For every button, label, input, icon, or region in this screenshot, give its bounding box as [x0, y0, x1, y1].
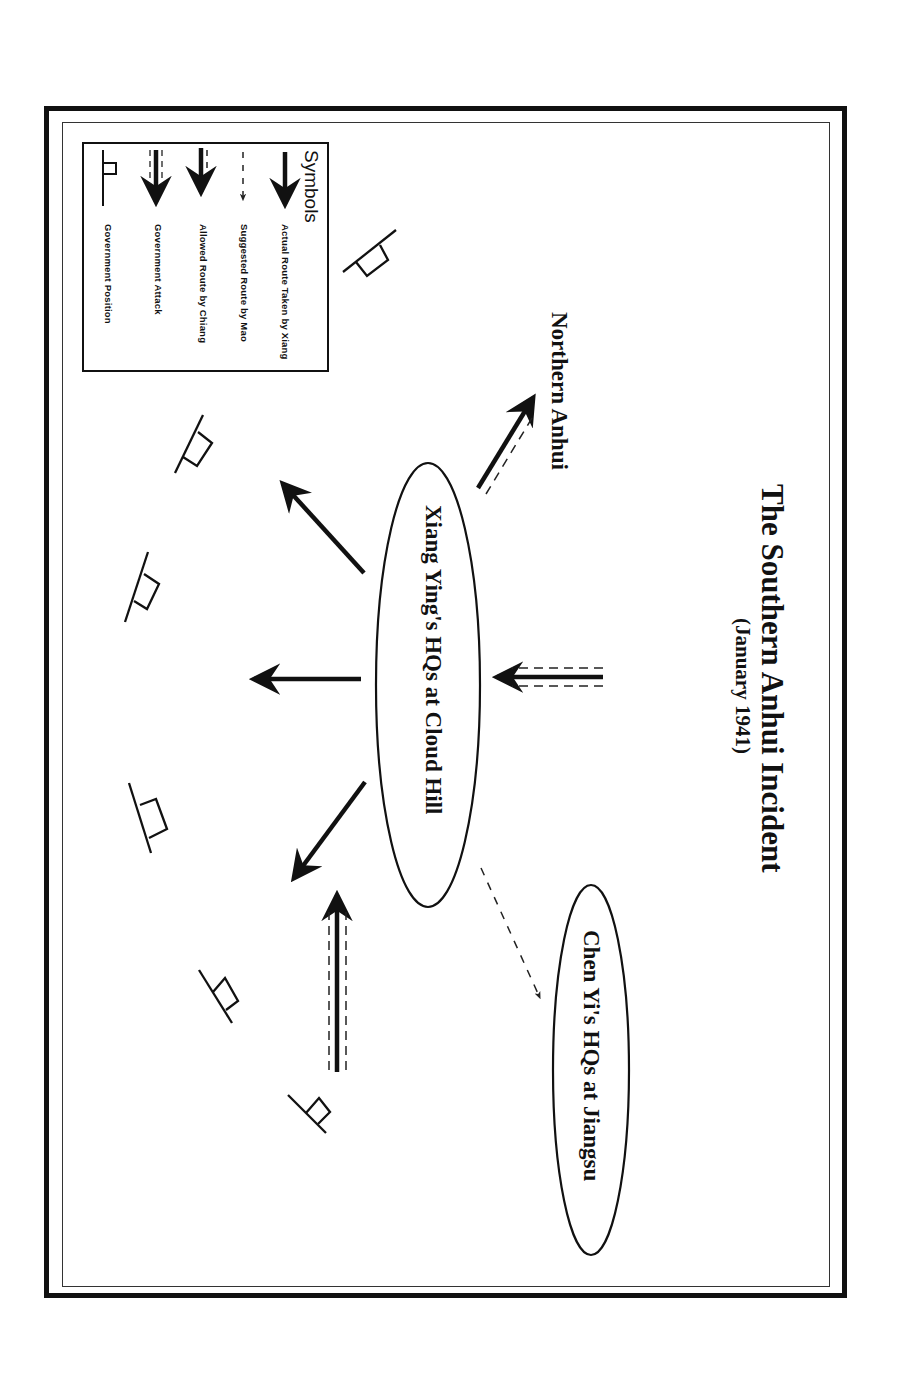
government-position-flag-2 [175, 415, 212, 473]
government-attack-arrow-north [497, 668, 603, 686]
legend-label-actual-route: Actual Route Taken by Xiang [280, 224, 291, 360]
actual-route-arrow-upper [283, 484, 364, 573]
legend-label-government-attack: Government Attack [153, 224, 164, 315]
legend-heading: Symbols [300, 150, 322, 223]
legend-label-allowed-route: Allowed Route by Chiang [198, 224, 209, 343]
diagram-page: The Southern Anhui Incident (January 194… [0, 0, 903, 1397]
xiang-hq-label: Xiang Ying's HQs at Cloud Hill [420, 505, 446, 815]
government-position-flag-3 [125, 552, 159, 622]
actual-route-arrow-lower [294, 782, 365, 878]
government-position-flag-6 [288, 1095, 330, 1133]
diagram-title: The Southern Anhui Incident [754, 484, 790, 872]
government-position-flag-1 [343, 230, 396, 276]
government-attack-arrow-south [329, 895, 346, 1072]
chen-hq-label: Chen Yi's HQs at Jiangsu [578, 930, 604, 1181]
northern-anhui-label: Northern Anhui [546, 312, 572, 470]
legend-label-suggested-route: Suggested Route by Mao [239, 224, 250, 342]
government-position-flag-4 [129, 783, 167, 853]
diagram-subtitle: (January 1941) [730, 618, 755, 754]
government-position-flag-5 [199, 970, 238, 1023]
allowed-route-arrow-north-anhui [478, 398, 533, 494]
suggested-route-arrow-to-chen [481, 868, 540, 998]
legend-label-government-position: Government Position [103, 224, 114, 324]
